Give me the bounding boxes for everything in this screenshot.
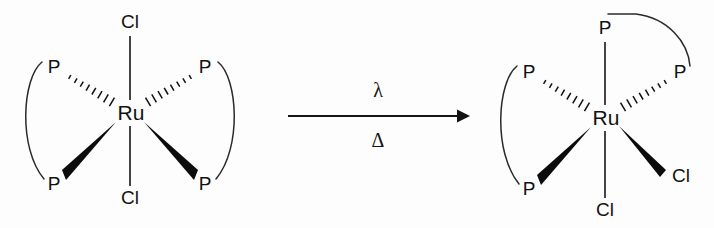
bond-ru-p-lower-left-wedge bbox=[62, 122, 116, 180]
reactant-metal-center: Ru bbox=[118, 101, 145, 124]
reaction-scheme-container: Cl Cl P P P P Ru λ Δ bbox=[0, 0, 714, 228]
product-structure: P Cl P P P Cl Ru bbox=[501, 14, 690, 220]
product-atom-p-upper-right: P bbox=[674, 61, 687, 82]
product-atom-p-upper-left: P bbox=[523, 61, 536, 82]
product-atom-p-lower-left: P bbox=[523, 178, 536, 199]
bond-ru-p-lower-right-wedge bbox=[144, 122, 198, 180]
reactant-atom-cl-top: Cl bbox=[121, 11, 139, 32]
reaction-scheme-svg: Cl Cl P P P P Ru λ Δ bbox=[0, 0, 714, 228]
bond-ru-cl-lower-right-wedge bbox=[619, 126, 666, 177]
product-atom-cl-lower-right: Cl bbox=[672, 165, 690, 186]
product-atom-cl-bottom: Cl bbox=[596, 199, 614, 220]
ligand-backbone-right bbox=[608, 14, 690, 66]
reaction-condition-delta: Δ bbox=[372, 129, 385, 151]
reaction-condition-lambda: λ bbox=[373, 79, 383, 101]
product-metal-center: Ru bbox=[593, 106, 620, 129]
reactant-atom-cl-bottom: Cl bbox=[121, 187, 139, 208]
reaction-arrow-group: λ Δ bbox=[288, 79, 470, 151]
ligand-backbone-right bbox=[216, 62, 234, 179]
reactant-structure: Cl Cl P P P P Ru bbox=[26, 11, 235, 208]
reactant-atom-p-upper-right: P bbox=[199, 56, 212, 77]
ligand-backbone-left bbox=[26, 62, 44, 179]
reactant-atom-p-lower-left: P bbox=[48, 173, 61, 194]
reaction-arrow-head bbox=[457, 110, 470, 123]
bond-ru-p-upper-right-hashed bbox=[146, 73, 193, 106]
bond-ru-p-upper-left-hashed bbox=[67, 73, 114, 106]
reactant-atom-p-lower-right: P bbox=[199, 173, 212, 194]
reactant-atom-p-upper-left: P bbox=[48, 56, 61, 77]
bond-ru-p-lower-left-wedge bbox=[537, 127, 591, 185]
product-atom-p-top: P bbox=[599, 17, 612, 38]
bond-ru-p-upper-right-hashed bbox=[621, 78, 668, 111]
bond-ru-p-upper-left-hashed bbox=[542, 78, 589, 111]
ligand-backbone-left bbox=[501, 66, 519, 184]
